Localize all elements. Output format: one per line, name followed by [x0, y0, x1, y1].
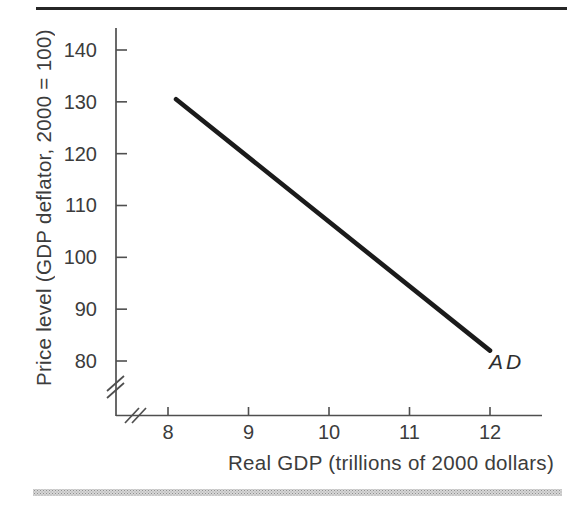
ad-curve-line	[176, 99, 490, 350]
ad-demand-curve	[176, 99, 490, 350]
x-tick-label: 10	[307, 421, 351, 443]
tick-marks	[116, 50, 490, 415]
ad-curve-label: AD	[489, 350, 524, 374]
y-tick-label: 120	[36, 143, 97, 165]
ad-curve-figure: Price level (GDP deflator, 2000 = 100) 1…	[0, 0, 583, 507]
y-tick-label: 80	[36, 350, 97, 372]
x-tick-label: 12	[468, 421, 512, 443]
x-tick-label: 11	[388, 421, 432, 443]
y-tick-label: 110	[36, 194, 97, 216]
x-tick-label: 8	[146, 421, 190, 443]
y-tick-label: 130	[36, 91, 97, 113]
y-tick-label: 140	[36, 39, 97, 61]
y-tick-label: 90	[36, 298, 97, 320]
bottom-decorative-band	[33, 489, 562, 496]
y-tick-label: 100	[36, 246, 97, 268]
x-axis-title: Real GDP (trillions of 2000 dollars)	[228, 451, 548, 475]
x-tick-label: 9	[227, 421, 271, 443]
